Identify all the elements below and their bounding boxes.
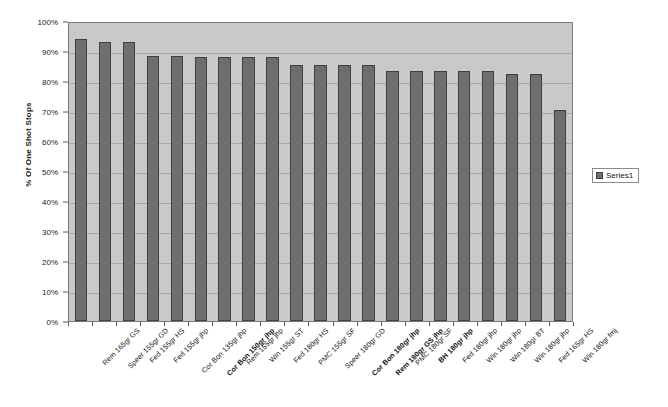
bar[interactable] <box>75 39 87 321</box>
y-axis-tick-label: 90% <box>42 48 58 57</box>
bar-slot <box>93 23 117 321</box>
bar-slot <box>380 23 404 321</box>
x-axis-tick-mark <box>573 322 574 326</box>
bar[interactable] <box>482 71 494 322</box>
bar-slot <box>213 23 237 321</box>
y-axis-tick-label: 80% <box>42 78 58 87</box>
bar-slot <box>189 23 213 321</box>
bar[interactable] <box>410 71 422 322</box>
bar[interactable] <box>554 110 566 322</box>
bar[interactable] <box>171 56 183 322</box>
bar-slot <box>428 23 452 321</box>
bar[interactable] <box>218 57 230 321</box>
bar-chart: % Of One Shot Stops 100%90%80%70%60%50%4… <box>0 0 668 407</box>
bar[interactable] <box>266 57 278 321</box>
y-axis-tick-label: 0% <box>46 318 58 327</box>
bar[interactable] <box>195 57 207 321</box>
bar-slot <box>165 23 189 321</box>
bar[interactable] <box>242 57 254 321</box>
bar[interactable] <box>147 56 159 322</box>
plot-area <box>68 22 573 322</box>
y-axis-tick-label: 100% <box>38 18 58 27</box>
y-axis-tick-labels: 100%90%80%70%60%50%40%30%20%10%0% <box>0 0 68 330</box>
bar-slot <box>141 23 165 321</box>
y-axis-tick-label: 40% <box>42 198 58 207</box>
bar[interactable] <box>506 74 518 322</box>
bar[interactable] <box>530 74 542 322</box>
bar-slot <box>476 23 500 321</box>
x-axis-category-labels: Rem 165gr GSSpeer 155gr GDFed 155gr HSFe… <box>68 326 573 406</box>
bar-slot <box>500 23 524 321</box>
legend: Series1 <box>592 168 639 183</box>
y-axis-tick-label: 10% <box>42 288 58 297</box>
bar[interactable] <box>123 42 135 321</box>
y-axis-tick-label: 30% <box>42 228 58 237</box>
bar[interactable] <box>362 65 374 322</box>
y-axis-tick-label: 60% <box>42 138 58 147</box>
bar-slot <box>452 23 476 321</box>
bar-slot <box>237 23 261 321</box>
bar[interactable] <box>290 65 302 322</box>
bar-slot <box>261 23 285 321</box>
bar[interactable] <box>99 42 111 321</box>
y-axis-tick-label: 70% <box>42 108 58 117</box>
bar-slot <box>332 23 356 321</box>
bar-slot <box>285 23 309 321</box>
bar-slot <box>404 23 428 321</box>
bar-slot <box>548 23 572 321</box>
bar[interactable] <box>314 65 326 322</box>
bars-layer <box>69 23 572 321</box>
y-axis-tick-label: 50% <box>42 168 58 177</box>
bar[interactable] <box>434 71 446 322</box>
bar-slot <box>356 23 380 321</box>
legend-label-series1: Series1 <box>606 171 633 180</box>
bar-slot <box>309 23 333 321</box>
bar-slot <box>117 23 141 321</box>
legend-swatch-series1 <box>596 172 603 179</box>
bar[interactable] <box>386 71 398 322</box>
bar-slot <box>524 23 548 321</box>
y-axis-tick-label: 20% <box>42 258 58 267</box>
bar[interactable] <box>338 65 350 322</box>
bar[interactable] <box>458 71 470 322</box>
bar-slot <box>69 23 93 321</box>
